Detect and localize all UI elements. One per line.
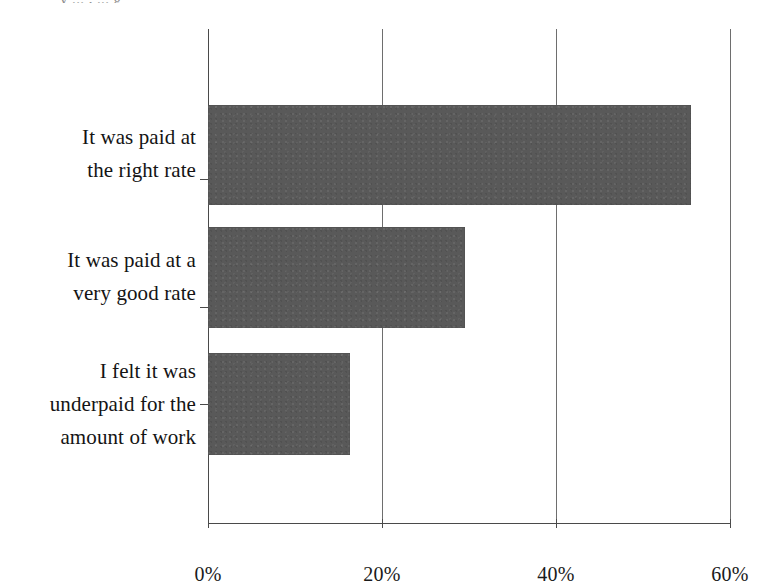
category-label-2: I felt it was underpaid for the amount o… (0, 355, 196, 454)
category-label-0: It was paid at the right rate (0, 121, 196, 187)
category-label-0-line-1: the right rate (0, 154, 196, 187)
plot-area: 0% 20% 40% 60% (208, 29, 730, 523)
bar-chart-figure: y ... , ... g It was paid at the right r… (0, 0, 775, 584)
bar-paid-right-rate (208, 105, 691, 205)
gridline-40-percent (556, 29, 557, 523)
category-label-1-line-0: It was paid at a (0, 244, 196, 277)
ytick-mark-2 (200, 404, 208, 405)
x-axis-baseline (208, 523, 730, 524)
ytick-mark-0 (200, 179, 208, 180)
category-label-1-line-1: very good rate (0, 277, 196, 310)
xtick-mark-20 (382, 519, 383, 528)
bar-underpaid (208, 353, 350, 455)
xtick-label-60: 60% (690, 563, 770, 584)
xtick-label-0: 0% (168, 563, 248, 584)
category-label-1: It was paid at a very good rate (0, 244, 196, 310)
category-label-0-line-0: It was paid at (0, 121, 196, 154)
bar-paid-very-good-rate (208, 227, 465, 328)
category-label-2-line-2: amount of work (0, 421, 196, 454)
category-label-2-line-0: I felt it was (0, 355, 196, 388)
category-label-2-line-1: underpaid for the (0, 388, 196, 421)
category-axis-labels: It was paid at the right rate It was pai… (0, 0, 196, 584)
xtick-label-40: 40% (516, 563, 596, 584)
xtick-mark-60 (730, 519, 731, 528)
xtick-mark-40 (556, 519, 557, 528)
gridline-60-percent (730, 29, 731, 523)
xtick-label-20: 20% (342, 563, 422, 584)
ytick-mark-1 (200, 307, 208, 308)
xtick-mark-0 (208, 519, 209, 528)
